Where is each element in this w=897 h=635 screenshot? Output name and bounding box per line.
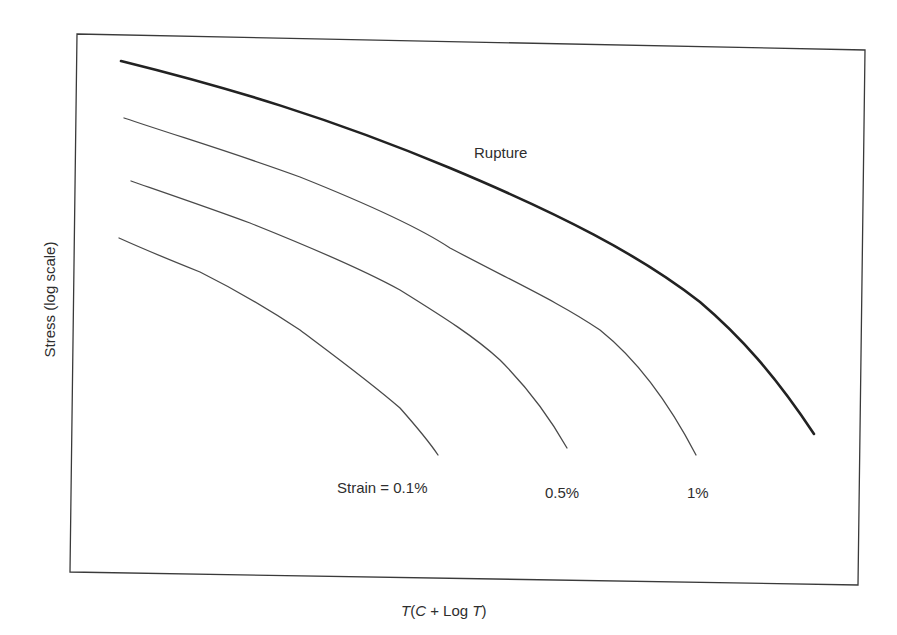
series-label-strain-1pct: 1% (687, 485, 709, 500)
y-axis-label: Stress (log scale) (42, 235, 57, 365)
x-axis-label-t1: T (401, 602, 410, 619)
series-rupture-line (121, 61, 814, 434)
series-strain-1pct-line (124, 118, 696, 455)
series-label-strain-05pct: 0.5% (545, 485, 579, 500)
chart-canvas (0, 0, 897, 635)
series-strain-01pct-line (119, 238, 438, 455)
series-label-rupture: Rupture (474, 145, 527, 160)
x-axis-label-close: ) (481, 602, 486, 619)
x-axis-label: T(C + Log T) (401, 603, 486, 618)
series-label-strain-01pct: Strain = 0.1% (337, 480, 427, 495)
chart: Rupture Strain = 0.1% 0.5% 1% Stress (lo… (0, 0, 897, 635)
plot-frame (70, 34, 865, 585)
x-axis-label-mid: + Log (426, 602, 472, 619)
series-strain-05pct-line (131, 181, 567, 448)
x-axis-label-c: C (415, 602, 426, 619)
